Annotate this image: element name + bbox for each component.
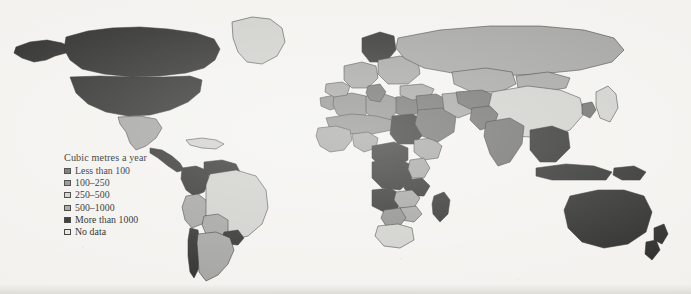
legend-swatch-icon xyxy=(64,168,71,174)
legend-swatch-icon xyxy=(64,192,71,198)
world-map xyxy=(0,0,691,294)
legend-title: Cubic metres a year xyxy=(64,152,147,164)
map-figure: Cubic metres a year Less than 100100–250… xyxy=(0,0,691,294)
legend-swatch-icon xyxy=(64,217,71,223)
legend-item-label: Less than 100 xyxy=(75,165,130,177)
world-map-svg xyxy=(0,0,691,294)
legend: Cubic metres a year Less than 100100–250… xyxy=(64,152,147,238)
legend-swatch-icon xyxy=(64,180,71,186)
legend-items: Less than 100100–250250–500500–1000More … xyxy=(64,165,147,238)
legend-swatch-icon xyxy=(64,229,71,235)
legend-swatch-icon xyxy=(64,205,71,211)
legend-item-label: 100–250 xyxy=(75,177,110,189)
map-region-canada xyxy=(64,27,220,77)
legend-item: 500–1000 xyxy=(64,202,147,214)
legend-item: 250–500 xyxy=(64,189,147,201)
legend-item: No data xyxy=(64,226,147,238)
legend-item-label: No data xyxy=(75,226,106,238)
legend-item: Less than 100 xyxy=(64,165,147,177)
legend-item: 100–250 xyxy=(64,177,147,189)
legend-item-label: 500–1000 xyxy=(75,202,115,214)
legend-item-label: More than 1000 xyxy=(75,214,138,226)
legend-item-label: 250–500 xyxy=(75,189,110,201)
legend-item: More than 1000 xyxy=(64,214,147,226)
